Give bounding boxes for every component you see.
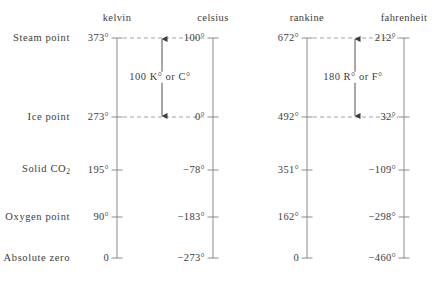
value-kelvin-0: 373° — [88, 33, 109, 44]
scale-header-kelvin: kelvin — [103, 13, 132, 24]
row-label-0: Steam point — [13, 33, 70, 44]
value-celsius-3: −183° — [178, 212, 205, 223]
value-rankine-2: 351° — [278, 165, 299, 176]
value-celsius-0: 100° — [184, 33, 205, 44]
scale-header-fahrenheit: fahrenheit — [381, 13, 428, 24]
value-fahrenheit-3: −298° — [369, 212, 396, 223]
value-rankine-4: 0 — [293, 253, 299, 264]
value-kelvin-1: 273° — [88, 112, 109, 123]
value-fahrenheit-1: 32° — [380, 112, 396, 123]
value-kelvin-4: 0 — [103, 253, 109, 264]
scale-header-rankine: rankine — [290, 13, 324, 24]
value-rankine-0: 672° — [278, 33, 299, 44]
value-celsius-1: 0° — [195, 112, 205, 123]
temperature-scale-diagram: kelvincelsiusrankinefahrenheitSteam poin… — [0, 0, 438, 282]
span-label-metric-interval: 100 K° or C° — [127, 72, 192, 83]
value-fahrenheit-2: −109° — [369, 165, 396, 176]
value-rankine-1: 492° — [278, 112, 299, 123]
value-celsius-4: −273° — [178, 253, 205, 264]
scale-header-celsius: celsius — [197, 13, 228, 24]
span-label-imperial-interval: 180 R° or F° — [321, 72, 385, 83]
value-kelvin-3: 90° — [93, 212, 109, 223]
value-celsius-2: −78° — [183, 165, 205, 176]
value-fahrenheit-0: 212° — [375, 33, 396, 44]
value-fahrenheit-4: −460° — [369, 253, 396, 264]
value-kelvin-2: 195° — [88, 165, 109, 176]
row-label-2: Solid CO2 — [22, 164, 70, 175]
value-rankine-3: 162° — [278, 212, 299, 223]
row-label-4: Absolute zero — [4, 253, 70, 264]
row-label-1: Ice point — [28, 112, 70, 123]
row-label-3: Oxygen point — [5, 212, 70, 223]
